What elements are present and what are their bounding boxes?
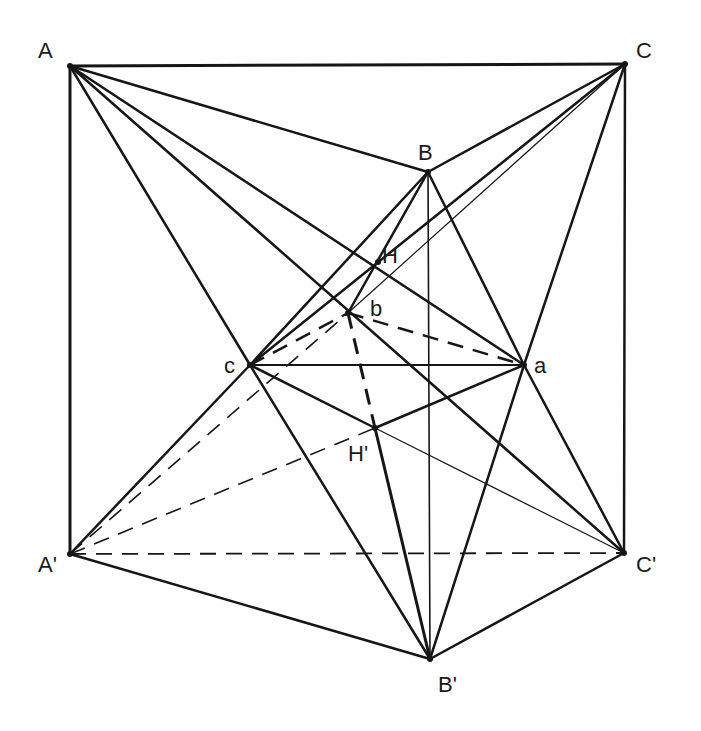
vertex-Cp [621, 550, 627, 556]
vertex-Bp [427, 656, 433, 662]
vertex-C [622, 61, 628, 67]
edge-A-C [70, 64, 625, 66]
vertex-b [345, 310, 351, 316]
vertex-A [67, 63, 73, 69]
edge-Ap-b [70, 313, 348, 554]
label-a: a [534, 353, 547, 378]
label-b: b [370, 296, 382, 321]
edge-B-a [428, 172, 524, 365]
vertex-H [375, 259, 381, 265]
label-C-prime: C' [636, 552, 656, 577]
label-A-prime: A' [38, 552, 57, 577]
edge-c-b [250, 313, 348, 365]
label-B-prime: B' [438, 672, 457, 697]
label-H-prime: H' [348, 441, 368, 466]
label-C: C [636, 38, 652, 63]
label-A: A [38, 38, 53, 63]
edge-Hp-Cp [375, 428, 624, 553]
edge-C-Cp [624, 64, 625, 553]
geometric-diagram: A C B H b c a H' A' C' B' [0, 0, 701, 731]
edge-Hp-Bp [375, 428, 430, 659]
vertex-Ap [67, 551, 73, 557]
edge-B-Bp [428, 172, 430, 659]
edge-a-Cp [524, 365, 624, 553]
diagram-labels: A C B H b c a H' A' C' B' [38, 38, 656, 697]
label-c: c [224, 353, 235, 378]
edge-Ap-Hp [70, 428, 375, 554]
edge-C-c [250, 64, 625, 365]
vertex-Hp [372, 425, 378, 431]
label-H: H [382, 243, 398, 268]
vertex-B [425, 169, 431, 175]
vertex-a [521, 362, 527, 368]
edge-a-Hp [375, 365, 524, 428]
vertex-c [247, 362, 253, 368]
edge-Ap-c [70, 365, 250, 554]
label-B: B [418, 140, 433, 165]
edge-Ap-Cp [70, 553, 624, 554]
